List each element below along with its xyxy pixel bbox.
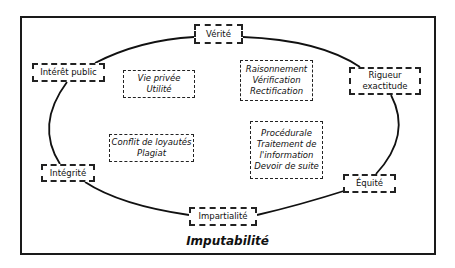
note-vie-privee: Vie privée Utilité (123, 70, 195, 98)
node-label: Équité (356, 178, 383, 189)
node-label: Rigueur (368, 70, 401, 81)
node-integrite: Intégrité (41, 164, 95, 182)
node-label: exactitude (362, 81, 407, 92)
node-verite: Vérité (194, 24, 243, 44)
note-line: Rectification (250, 86, 303, 97)
note-line: Traitement de (257, 139, 317, 150)
note-procedurale: Procédurale Traitement de l'information … (250, 121, 323, 179)
note-line: l'information (260, 150, 314, 161)
edge-impartialite-integrite (85, 182, 189, 215)
note-line: Vérification (252, 75, 300, 86)
node-label: Intégrité (50, 168, 86, 179)
note-raisonnement: Raisonnement Vérification Rectification (240, 60, 313, 101)
node-equite: Équité (343, 174, 396, 193)
edge-interet-verite (95, 37, 194, 63)
node-label: Vérité (206, 29, 231, 40)
note-line: Vie privée (138, 73, 181, 84)
note-line: Procédurale (261, 128, 312, 139)
diagram-title: Imputabilité (0, 234, 455, 248)
node-rigueur: Rigueur exactitude (349, 67, 421, 95)
edge-equite-impartialite (257, 190, 347, 215)
note-line: Devoir de suite (254, 161, 319, 172)
note-line: Conflit de loyautés (112, 137, 192, 148)
note-line: Raisonnement (246, 64, 307, 75)
node-label: Intérêt public (40, 67, 97, 78)
edge-integrite-interet (49, 82, 67, 164)
note-line: Utilité (146, 84, 171, 95)
note-conflit: Conflit de loyautés Plagiat (109, 134, 194, 162)
node-label: Impartialité (198, 211, 247, 222)
node-interet-public: Intérêt public (32, 63, 105, 82)
edge-rigueur-equite (376, 95, 399, 174)
node-impartialite: Impartialité (189, 207, 257, 226)
note-line: Plagiat (137, 148, 166, 159)
